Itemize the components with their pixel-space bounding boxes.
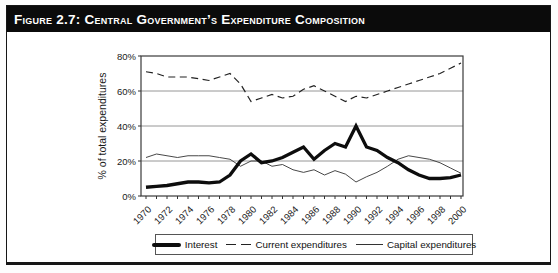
chart-legend: Interest Current expenditures Capital ex… — [155, 234, 473, 255]
figure-title-bar: Figure 2.7: Central Government’s Expendi… — [7, 6, 550, 32]
legend-item-interest: Interest — [152, 239, 218, 250]
legend-item-capital-expenditures: Capital expenditures — [356, 239, 476, 250]
legend-item-current-expenditures: Current expenditures — [226, 239, 347, 250]
figure-title: Figure 2.7: Central Government’s Expendi… — [7, 12, 365, 27]
figure-page: Figure 2.7: Central Government’s Expendi… — [0, 0, 558, 273]
current-expenditures-line-swatch — [226, 244, 251, 246]
interest-line-swatch — [152, 243, 181, 247]
legend-label-capital-expenditures: Capital expenditures — [387, 239, 476, 250]
legend-label-interest: Interest — [185, 239, 218, 250]
legend-label-current-expenditures: Current expenditures — [255, 239, 347, 250]
capital-expenditures-line-swatch — [356, 244, 383, 245]
figure-frame: Figure 2.7: Central Government’s Expendi… — [6, 5, 551, 265]
